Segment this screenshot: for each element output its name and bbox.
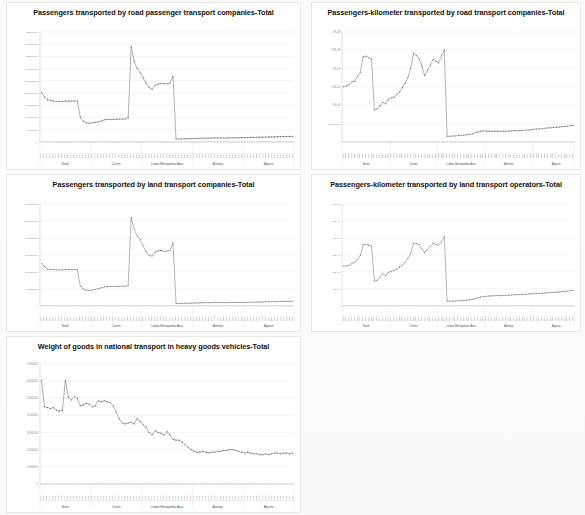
svg-text:2016: 2016: [132, 153, 134, 159]
svg-text:2004: 2004: [96, 316, 98, 321]
svg-text:2012: 2012: [465, 153, 467, 159]
svg-text:2018: 2018: [189, 495, 191, 501]
svg-text:100000000: 100000000: [25, 288, 38, 291]
svg-text:2004: 2004: [96, 153, 98, 159]
svg-text:Centro: Centro: [112, 162, 121, 166]
svg-text:2002: 2002: [342, 153, 344, 159]
svg-text:2009: 2009: [456, 316, 458, 321]
svg-text:Lisbon Metropolitan Area: Lisbon Metropolitan Area: [151, 505, 183, 509]
svg-text:50000000: 50000000: [27, 129, 39, 132]
svg-text:2010: 2010: [63, 316, 65, 321]
svg-text:2014: 2014: [279, 495, 281, 501]
svg-text:2011: 2011: [510, 153, 512, 159]
svg-text:2008: 2008: [108, 153, 110, 159]
svg-text:2014: 2014: [565, 316, 567, 321]
svg-text:2005: 2005: [350, 316, 352, 321]
svg-text:2008: 2008: [57, 495, 59, 501]
svg-text:2015: 2015: [473, 316, 475, 321]
svg-text:2005: 2005: [99, 153, 101, 159]
svg-text:2017: 2017: [135, 316, 137, 321]
svg-text:Centro: Centro: [410, 324, 418, 328]
svg-text:2012: 2012: [120, 316, 122, 321]
svg-text:2009: 2009: [504, 153, 506, 159]
svg-text:2003: 2003: [487, 153, 489, 159]
svg-text:2015: 2015: [180, 316, 182, 321]
svg-text:3.E+09: 3.E+09: [332, 254, 341, 257]
svg-text:2003: 2003: [195, 153, 197, 159]
svg-text:2012: 2012: [69, 316, 71, 321]
svg-text:2004: 2004: [395, 153, 397, 159]
svg-text:2013: 2013: [372, 316, 374, 321]
svg-text:2016: 2016: [234, 316, 236, 321]
svg-text:2007: 2007: [156, 316, 158, 321]
svg-text:2004: 2004: [490, 316, 492, 321]
svg-text:2018: 2018: [138, 495, 140, 501]
svg-text:2018: 2018: [189, 153, 191, 159]
svg-text:2004: 2004: [96, 495, 98, 501]
svg-text:2010: 2010: [459, 316, 461, 321]
svg-text:2008: 2008: [358, 316, 360, 321]
svg-text:2004: 2004: [442, 153, 444, 159]
svg-text:2004: 2004: [347, 316, 349, 321]
svg-text:600000000: 600000000: [25, 203, 38, 206]
svg-text:2018: 2018: [482, 316, 484, 321]
svg-text:2012: 2012: [560, 316, 562, 321]
svg-text:2014: 2014: [423, 153, 425, 159]
svg-text:2003: 2003: [93, 495, 95, 501]
svg-text:2008: 2008: [358, 153, 360, 159]
svg-text:2008: 2008: [406, 153, 408, 159]
chart-4-svg: 01.E+092.E+093.E+094.E+095.E+096.E+09200…: [312, 201, 578, 331]
svg-text:2002: 2002: [437, 316, 439, 321]
svg-text:2013: 2013: [563, 316, 565, 321]
svg-text:2013: 2013: [225, 153, 227, 159]
svg-text:2017: 2017: [84, 316, 86, 321]
svg-text:2002: 2002: [484, 316, 486, 321]
svg-text:2011: 2011: [168, 495, 170, 501]
svg-text:2008: 2008: [57, 153, 59, 159]
svg-text:2004: 2004: [395, 316, 397, 321]
svg-text:250000000: 250000000: [25, 80, 38, 83]
svg-text:2005: 2005: [398, 153, 400, 159]
svg-text:2012: 2012: [222, 495, 224, 501]
svg-text:2006: 2006: [51, 495, 53, 501]
svg-text:2003: 2003: [195, 316, 197, 321]
svg-text:2002: 2002: [342, 316, 344, 321]
svg-text:2012: 2012: [417, 316, 419, 321]
svg-text:2011: 2011: [270, 495, 272, 501]
svg-text:2010: 2010: [267, 153, 269, 159]
svg-text:2006: 2006: [51, 316, 53, 321]
svg-text:Lisbon Metropolitan Area: Lisbon Metropolitan Area: [151, 324, 183, 328]
svg-text:1.E+09: 1.E+09: [332, 288, 341, 291]
svg-text:2009: 2009: [361, 316, 363, 321]
svg-text:2006: 2006: [153, 153, 155, 159]
svg-text:2006: 2006: [496, 153, 498, 159]
svg-text:2017: 2017: [431, 316, 433, 321]
chart-cell-2: Passengers-kilometer transported by road…: [305, 0, 585, 172]
svg-text:2015: 2015: [180, 495, 182, 501]
svg-text:2008: 2008: [261, 316, 263, 321]
svg-text:Algarve: Algarve: [552, 162, 561, 166]
svg-text:2006: 2006: [204, 316, 206, 321]
svg-text:2007: 2007: [403, 153, 405, 159]
svg-text:500000000: 500000000: [25, 220, 38, 223]
svg-text:2012: 2012: [560, 153, 562, 159]
svg-text:2009: 2009: [551, 316, 553, 321]
svg-text:2011: 2011: [414, 153, 416, 159]
chart-cell-empty: [305, 334, 585, 515]
svg-text:2012: 2012: [69, 153, 71, 159]
svg-text:2018: 2018: [529, 316, 531, 321]
svg-text:2011: 2011: [270, 153, 272, 159]
svg-text:2005: 2005: [48, 316, 50, 321]
svg-text:2012: 2012: [512, 316, 514, 321]
svg-text:2003: 2003: [144, 316, 146, 321]
svg-text:2002: 2002: [243, 316, 245, 321]
svg-text:2016: 2016: [183, 316, 185, 321]
svg-text:2016: 2016: [234, 495, 236, 501]
svg-text:40000000: 40000000: [27, 413, 39, 417]
chart-2-plot: 05000000001.E+091.5E+092.E+092.5E+093.E+…: [312, 29, 578, 169]
svg-text:2009: 2009: [111, 495, 113, 501]
svg-text:2018: 2018: [386, 153, 388, 159]
chart-cell-5: Weight of goods in national transport in…: [0, 334, 305, 515]
svg-text:2009: 2009: [361, 153, 363, 159]
svg-text:2012: 2012: [171, 316, 173, 321]
